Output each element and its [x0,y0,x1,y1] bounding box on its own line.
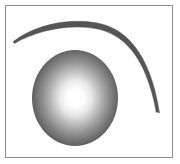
gradient-oval [32,50,118,146]
figure-canvas: Shaded oval with overarching crescent st… [0,0,180,164]
figure-illustration: Shaded oval with overarching crescent st… [0,0,180,164]
